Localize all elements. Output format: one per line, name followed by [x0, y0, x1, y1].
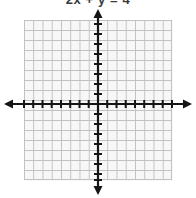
y-axis-down-arrow-icon	[94, 186, 103, 195]
x-axis-right-arrow-icon	[183, 100, 192, 109]
axes-layer	[0, 0, 196, 198]
x-axis-left-arrow-icon	[4, 100, 13, 109]
worksheet-graph-figure: 2x + y = 4	[0, 0, 196, 198]
y-axis	[94, 9, 103, 195]
y-axis-up-arrow-icon	[94, 9, 103, 18]
coordinate-plane	[0, 0, 196, 198]
